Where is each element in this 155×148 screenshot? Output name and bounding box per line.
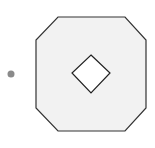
diagram-canvas <box>0 0 155 148</box>
dot-marker <box>8 71 15 78</box>
